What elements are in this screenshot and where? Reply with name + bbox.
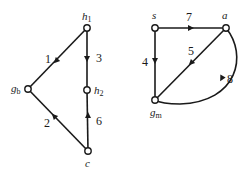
node-label-s: s [152, 9, 156, 21]
node-label-h1: h1 [82, 10, 92, 24]
edge-label-8: 8 [227, 72, 233, 86]
edge-c-gb [28, 89, 88, 151]
node-label-a: a [222, 9, 228, 21]
edge-label-6: 6 [96, 114, 102, 128]
edge-label-3: 3 [96, 51, 102, 65]
left-graph: 1 2 3 6 h1 gb h2 c [11, 10, 104, 169]
node-label-gm: gm [150, 106, 163, 120]
arrow-edge-3-icon [84, 56, 90, 62]
node-c [85, 148, 91, 154]
edge-label-7: 7 [186, 10, 192, 24]
arrow-edge-7-icon [188, 25, 194, 31]
arrow-edge-6-icon [85, 112, 91, 118]
arrow-edge-8-icon [218, 75, 226, 83]
edge-label-5: 5 [188, 44, 194, 58]
node-gb [25, 86, 31, 92]
node-a [223, 25, 229, 31]
node-h2 [84, 87, 90, 93]
node-label-c: c [85, 157, 90, 169]
edge-a-gm-curved [155, 28, 237, 104]
graph-diagram: 1 2 3 6 h1 gb h2 c 7 4 5 8 s [0, 0, 246, 176]
arrow-edge-4-icon [152, 58, 158, 64]
node-h1 [84, 25, 90, 31]
node-s [152, 25, 158, 31]
edge-label-2: 2 [44, 116, 50, 130]
edge-h1-gb [28, 28, 87, 89]
edge-c-h2 [87, 90, 88, 151]
edge-label-1: 1 [45, 52, 51, 66]
right-graph: 7 4 5 8 s a gm [142, 9, 237, 120]
edge-label-4: 4 [142, 55, 148, 69]
node-gm [152, 97, 158, 103]
node-label-h2: h2 [94, 84, 104, 98]
node-label-gb: gb [11, 82, 21, 96]
